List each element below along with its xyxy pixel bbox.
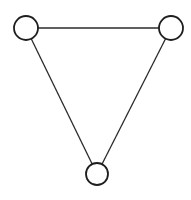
node-n1	[14, 16, 38, 40]
nodes-group	[14, 16, 183, 185]
edge-n2-n3	[97, 28, 171, 174]
node-n2	[159, 16, 183, 40]
node-n3	[86, 163, 108, 185]
triangle-graph-diagram	[0, 0, 191, 200]
edges-group	[26, 28, 171, 174]
edge-n1-n3	[26, 28, 97, 174]
